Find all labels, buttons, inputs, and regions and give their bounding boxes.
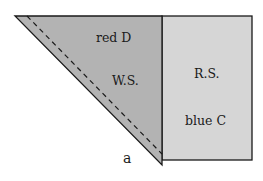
diagram-canvas: red D W.S. R.S. blue C a xyxy=(0,0,263,181)
right-rectangle xyxy=(162,16,252,160)
label-blue-c: blue C xyxy=(185,113,226,128)
label-ws: W.S. xyxy=(112,73,139,88)
label-vertex-a: a xyxy=(123,150,131,166)
label-red-d: red D xyxy=(96,30,131,45)
diagram-svg: red D W.S. R.S. blue C a xyxy=(0,0,263,181)
left-triangle xyxy=(15,16,162,165)
label-rs: R.S. xyxy=(194,66,219,81)
